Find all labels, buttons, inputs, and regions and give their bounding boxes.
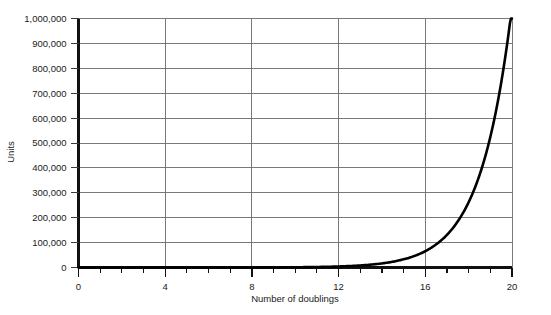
y-tick-label: 100,000: [32, 237, 66, 248]
x-tick-label: 12: [333, 281, 344, 292]
x-tick-label: 16: [420, 281, 431, 292]
y-tick-label: 0: [61, 262, 66, 273]
x-tick-label: 4: [163, 281, 168, 292]
y-tick-label: 700,000: [32, 88, 66, 99]
y-tick-label: 200,000: [32, 212, 66, 223]
y-tick-label: 800,000: [32, 63, 66, 74]
x-tick-label: 0: [76, 281, 81, 292]
y-tick-label: 900,000: [32, 38, 66, 49]
chart-canvas: 0100,000200,000300,000400,000500,000600,…: [0, 0, 551, 315]
x-tick-label: 20: [507, 281, 518, 292]
y-tick-label: 1,000,000: [24, 13, 66, 24]
y-tick-label: 300,000: [32, 187, 66, 198]
y-tick-label: 400,000: [32, 162, 66, 173]
y-tick-label: 500,000: [32, 137, 66, 148]
x-tick-label: 8: [249, 281, 254, 292]
y-tick-label: 600,000: [32, 113, 66, 124]
exponential-growth-chart: 0100,000200,000300,000400,000500,000600,…: [0, 0, 551, 315]
y-axis-title: Units: [5, 141, 16, 163]
x-axis-title: Number of doublings: [251, 293, 339, 304]
